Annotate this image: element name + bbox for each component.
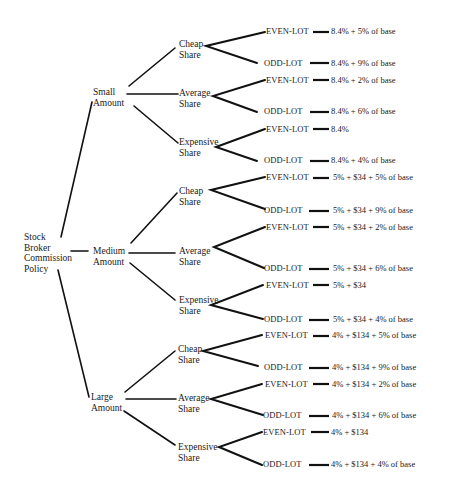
leaf-odd-lot: ODD-LOT (264, 314, 302, 324)
root-node-label: Stock Broker Commission Policy (24, 232, 72, 274)
node-large-expensive-share: Expensive Share (178, 442, 218, 464)
leaf-odd-lot: ODD-LOT (264, 263, 302, 273)
leaf-odd-lot: ODD-LOT (264, 362, 302, 372)
leaf-even-lot: EVEN-LOT (266, 172, 309, 182)
node-small-cheap-share: Cheap Share (179, 39, 203, 61)
leaf-value: 8.4% + 2% of base (331, 75, 396, 85)
leaf-value: 4% + $134 + 6% of base (332, 410, 416, 420)
node-large-cheap-share: Cheap Share (178, 344, 202, 366)
leaf-even-lot: EVEN-LOT (265, 379, 308, 389)
node-medium-expensive-share: Expensive Share (179, 295, 219, 317)
leaf-value: 4% + $134 + 2% of base (332, 379, 416, 389)
leaf-value: 4% + $134 + 4% of base (331, 459, 415, 469)
node-small-amount: Small Amount (93, 87, 124, 109)
leaf-even-lot: EVEN-LOT (263, 427, 306, 437)
leaf-even-lot: EVEN-LOT (266, 26, 309, 36)
leaf-odd-lot: ODD-LOT (264, 106, 302, 116)
leaf-odd-lot: ODD-LOT (263, 459, 301, 469)
leaf-value: 8.4% + 5% of base (331, 26, 396, 36)
leaf-value: 5% + $34 (333, 280, 366, 290)
leaf-value: 8.4% + 4% of base (331, 155, 396, 165)
leaf-value: 8.4% + 6% of base (331, 106, 396, 116)
leaf-value: 4% + $134 + 9% of base (332, 362, 416, 372)
leaf-even-lot: EVEN-LOT (266, 222, 309, 232)
leaf-value: 4% + $134 + 5% of base (332, 330, 416, 340)
leaf-even-lot: EVEN-LOT (266, 75, 309, 85)
node-large-average-share: Average Share (178, 393, 209, 415)
leaf-value: 5% + $34 + 9% of base (333, 205, 413, 215)
leaf-odd-lot: ODD-LOT (264, 205, 302, 215)
node-large-amount: Large Amount (91, 392, 122, 414)
leaf-value: 4% + $134 (331, 427, 368, 437)
leaf-odd-lot: ODD-LOT (264, 58, 302, 68)
node-small-expensive-share: Expensive Share (179, 137, 219, 159)
leaf-even-lot: EVEN-LOT (266, 280, 309, 290)
leaf-even-lot: EVEN-LOT (265, 330, 308, 340)
leaf-value: 5% + $34 + 4% of base (333, 314, 413, 324)
leaf-odd-lot: ODD-LOT (264, 155, 302, 165)
leaf-even-lot: EVEN-LOT (266, 124, 309, 134)
node-medium-amount: Medium Amount (93, 246, 125, 268)
node-medium-cheap-share: Cheap Share (179, 186, 203, 208)
leaf-value: 5% + $34 + 5% of base (333, 172, 413, 182)
leaf-odd-lot: ODD-LOT (263, 410, 301, 420)
leaf-value: 8.4% + 9% of base (331, 58, 396, 68)
leaf-value: 8.4% (331, 124, 349, 134)
node-small-average-share: Average Share (179, 88, 210, 110)
leaf-value: 5% + $34 + 6% of base (333, 263, 413, 273)
leaf-value: 5% + $34 + 2% of base (333, 222, 413, 232)
node-medium-average-share: Average Share (179, 246, 210, 268)
